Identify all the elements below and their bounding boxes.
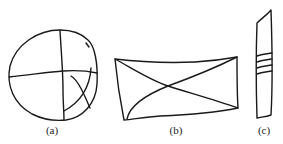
panel-a — [9, 30, 97, 120]
panel-a-horizontal-line — [9, 71, 97, 77]
panel-c-strip — [256, 10, 272, 118]
panel-a-curve-2 — [71, 76, 90, 108]
panel-b-diagonal-2 — [127, 57, 237, 119]
panel-a-curve-1 — [64, 68, 91, 111]
panel-c — [256, 10, 272, 118]
panel-b — [115, 57, 238, 120]
panel-c-band-3 — [257, 65, 272, 68]
panel-a-vertical-line — [60, 30, 64, 120]
panel-c-band-2 — [257, 59, 272, 62]
panel-a-tick — [86, 43, 89, 47]
figure: (a) (b) (c) — [0, 0, 283, 144]
panel-c-band-1 — [257, 53, 272, 56]
panel-c-band-4 — [257, 71, 272, 74]
panel-b-label: (b) — [170, 124, 183, 137]
panel-c-label: (c) — [258, 124, 271, 137]
panel-a-label: (a) — [46, 124, 59, 137]
